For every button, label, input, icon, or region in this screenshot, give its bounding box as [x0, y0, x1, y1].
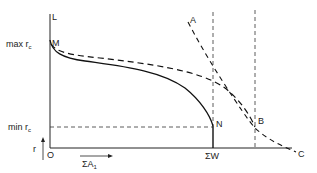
label-origin: O	[47, 150, 54, 160]
label-m: M	[52, 38, 60, 48]
dashed-curve-m-b	[51, 44, 255, 127]
label-b: B	[258, 116, 264, 126]
label-max-rc: max rc	[6, 39, 32, 50]
label-a: A	[190, 15, 196, 25]
label-c: C	[298, 149, 305, 159]
label-r: r	[33, 144, 36, 154]
label-min-rc: min rc	[8, 122, 31, 133]
label-n: N	[216, 119, 223, 129]
dashed-curve-a-b-c	[188, 22, 296, 152]
diagram-canvas: L M max rc min rc r O ΣA1 ΣW N A B C	[0, 0, 317, 173]
solid-curve-m-n	[50, 40, 213, 126]
label-sigma-a1: ΣA1	[82, 159, 98, 170]
label-sigma-w: ΣW	[205, 151, 220, 161]
label-l: L	[52, 12, 57, 22]
r-arrow-head-icon	[41, 137, 45, 142]
sigma-a-arrow-head-icon	[108, 154, 113, 158]
